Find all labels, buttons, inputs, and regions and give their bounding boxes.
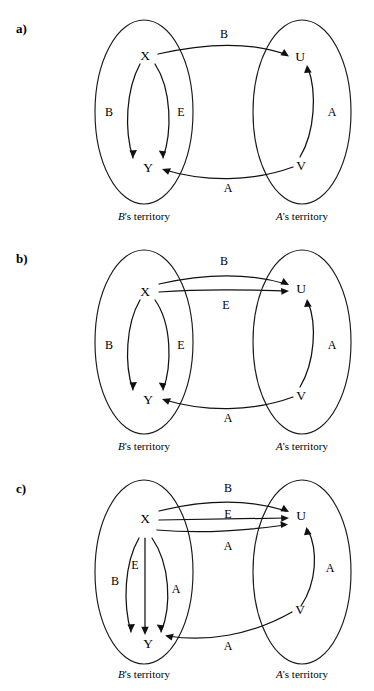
panel-b-edge-label-left-outer: B (105, 338, 113, 352)
panel-c-arrowhead-x-to-u-a (280, 521, 288, 528)
panel-a-tag: a) (16, 21, 27, 36)
panel-a-arrowhead-x-to-y-e (159, 151, 167, 158)
figure-root: a) X Y U V B E B A A B's territory (0, 0, 374, 691)
panel-b-left-territory-caption: B's territory (118, 440, 170, 452)
panel-b-edge-label-bottom-cross: A (224, 411, 233, 425)
panel-a-edge-label-right-inner: A (328, 105, 337, 119)
panel-c-edge-v-to-y-a (168, 612, 292, 638)
panel-c-edge-label-left-outer: B (111, 574, 119, 588)
panel-a-right-territory-rest: 's territory (283, 210, 329, 222)
panel-c-node-v: V (295, 602, 305, 617)
panel-c-edge-x-to-u-e (159, 518, 286, 520)
panel-b-edge-v-to-y-a (165, 397, 293, 409)
panel-c-edge-label-top-cross-lower: A (224, 539, 233, 553)
panel-c-edge-v-to-u-a (301, 530, 314, 606)
panel-c-edge-label-left-inner: A (172, 582, 181, 596)
panel-c-node-y: Y (143, 636, 153, 651)
panel-a-left-territory-caption: B's territory (118, 210, 170, 222)
panel-a-edge-x-to-y-e (155, 64, 169, 158)
panel-b-edge-label-top-cross-upper: B (220, 254, 228, 268)
panel-c-edge-label-top-cross-mid: E (224, 507, 231, 521)
panel-c-left-territory-caption: B's territory (118, 668, 170, 680)
panel-b-node-u: U (296, 281, 306, 296)
panel-c-arrowhead-x-to-y-a (157, 625, 165, 632)
panel-c-edge-x-to-u-a (157, 525, 285, 532)
panel-a-arrowhead-x-to-y-b (130, 150, 138, 158)
panel-c-edge-label-bottom-cross: A (224, 639, 233, 653)
panel-b-edge-label-left-inner: E (177, 338, 184, 352)
panel-c-left-territory-rest: 's territory (125, 668, 171, 680)
panel-a-node-u: U (295, 49, 305, 64)
panel-b-tag: b) (16, 251, 28, 266)
panel-a-arrowhead-v-to-u-a (304, 65, 312, 73)
panel-b-node-x: X (140, 284, 150, 299)
panel-a-node-y: Y (143, 160, 153, 175)
panel-c-node-x: X (140, 511, 150, 526)
panel-c-right-territory-caption: A's territory (275, 668, 328, 680)
panel-b-edge-label-top-cross-lower: E (222, 298, 229, 312)
panel-a-edge-v-to-u-a (300, 68, 313, 157)
panel-c-edge-x-to-y-a (152, 538, 168, 632)
panel-c: c) X Y U V B E A B E (0, 460, 374, 691)
panel-b: b) X Y U V B E B E A A B's territory A's… (0, 230, 374, 460)
panel-b-node-v: V (296, 388, 306, 403)
panel-c-tag: c) (16, 481, 26, 496)
panel-c-arrowhead-v-to-y-a (165, 634, 174, 641)
panel-b-edge-x-to-u-e (159, 290, 286, 292)
panel-a-right-territory-caption: A's territory (275, 210, 328, 222)
panel-a-edge-v-to-y-a (165, 167, 293, 179)
panel-c-edge-label-top-cross-upper: B (224, 481, 232, 495)
panel-b-right-territory-rest: 's territory (283, 440, 329, 452)
panel-c-edge-label-right-inner: A (326, 561, 335, 575)
panel-b-arrowhead-x-to-u-e (281, 288, 289, 295)
panel-c-arrowhead-x-to-u-e (281, 515, 289, 522)
panel-b-arrowhead-x-to-y-b (130, 382, 138, 390)
panel-c-edge-x-to-y-b (126, 538, 139, 632)
panel-b-edge-x-to-y-b (128, 300, 140, 390)
panel-c-arrowhead-v-to-u-a (304, 527, 312, 535)
panel-b-edge-label-right-inner: A (328, 338, 337, 352)
panel-c-right-territory-rest: 's territory (283, 668, 329, 680)
panel-b-left-territory-rest: 's territory (125, 440, 171, 452)
panel-c-arrowhead-x-to-y-e (141, 627, 148, 635)
panel-a-node-x: X (140, 48, 150, 63)
panel-b-right-territory-caption: A's territory (275, 440, 328, 452)
panel-a-edge-label-top-cross: B (220, 27, 228, 41)
panel-b-edge-v-to-u-a (300, 302, 313, 387)
panel-c-arrowhead-x-to-y-b (128, 624, 136, 632)
panel-c-edge-label-left-mid: E (131, 558, 138, 572)
panel-b-arrowhead-x-to-u-b (280, 278, 289, 285)
panel-a: a) X Y U V B E B A A B's territory (0, 0, 374, 230)
panel-a-edge-x-to-y-b (128, 64, 140, 158)
panel-b-arrowhead-x-to-y-e (159, 383, 167, 390)
panel-a-node-v: V (296, 158, 306, 173)
panel-a-edge-label-left-outer: B (105, 105, 113, 119)
panel-c-edge-x-to-u-b (159, 502, 286, 511)
panel-c-node-u: U (296, 508, 306, 523)
panel-a-left-territory-rest: 's territory (125, 210, 171, 222)
panel-b-arrowhead-v-to-u-a (304, 299, 312, 307)
panel-b-node-y: Y (143, 392, 153, 407)
panel-c-arrowhead-x-to-u-b (280, 505, 289, 512)
panel-a-edge-label-left-inner: E (177, 105, 184, 119)
panel-a-edge-label-bottom-cross: A (224, 181, 233, 195)
panel-b-edge-x-to-y-e (155, 300, 169, 390)
